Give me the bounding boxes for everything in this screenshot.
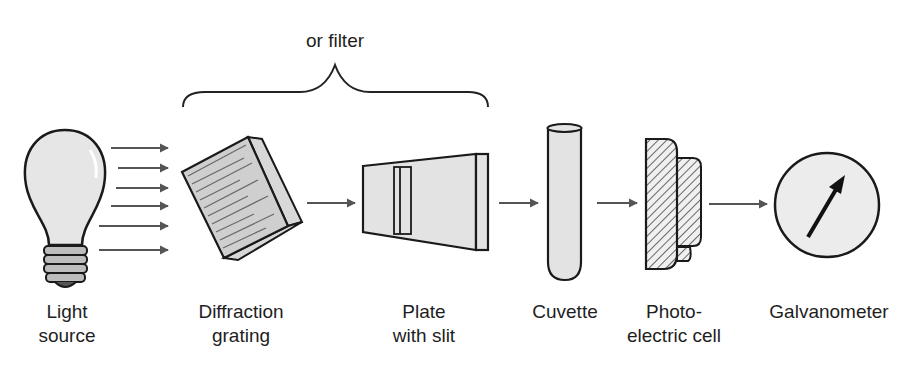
photoelectric-cell-icon	[646, 139, 701, 269]
label-diffraction-grating: Diffraction grating	[198, 300, 283, 348]
label-line: electric cell	[627, 324, 721, 348]
light-rays	[99, 148, 168, 250]
label-cuvette: Cuvette	[532, 300, 597, 324]
light-bulb-icon	[25, 130, 105, 287]
label-line: Light	[38, 300, 95, 324]
plate-with-slit-icon	[363, 154, 488, 250]
label-line: with slit	[393, 324, 455, 348]
label-galvanometer: Galvanometer	[769, 300, 888, 324]
brace-label: or filter	[306, 30, 364, 52]
label-line: Galvanometer	[769, 300, 888, 324]
label-plate-with-slit: Plate with slit	[393, 300, 455, 348]
label-line: source	[38, 324, 95, 348]
diffraction-grating-icon	[182, 137, 302, 260]
brace	[183, 65, 488, 107]
label-line: Cuvette	[532, 300, 597, 324]
label-light-source: Light source	[38, 300, 95, 348]
cuvette-icon	[548, 124, 582, 280]
label-line: Diffraction	[198, 300, 283, 324]
label-line: grating	[198, 324, 283, 348]
label-line: Plate	[393, 300, 455, 324]
label-line: Photo-	[627, 300, 721, 324]
label-photoelectric-cell: Photo- electric cell	[627, 300, 721, 348]
galvanometer-icon	[775, 153, 879, 257]
